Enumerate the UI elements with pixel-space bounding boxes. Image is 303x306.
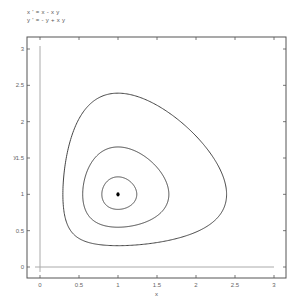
x-tick-label: 2.5 [231, 282, 240, 288]
x-tick-label: 0.5 [75, 282, 84, 288]
x-tick-label: 0 [38, 282, 42, 288]
y-tick-label: 3 [21, 46, 25, 52]
reference-lines [35, 46, 274, 272]
x-axis-label: x [155, 291, 158, 297]
y-axis-label: y [14, 154, 17, 160]
orbit-curves [63, 93, 227, 246]
x-tick-label: 3 [272, 282, 276, 288]
phase-plane-plot: 00.511.522.53 00.511.522.53 x y [0, 0, 303, 306]
y-axis-ticks: 00.511.522.53 [16, 46, 286, 270]
y-tick-label: 2.5 [16, 82, 25, 88]
x-axis-ticks: 00.511.522.53 [38, 37, 276, 288]
x-tick-label: 1 [116, 282, 120, 288]
y-tick-label: 1 [21, 191, 25, 197]
y-tick-label: 0.5 [16, 228, 25, 234]
y-tick-label: 0 [21, 264, 25, 270]
equilibrium-point [116, 192, 119, 196]
equilibrium-dot [116, 192, 119, 196]
y-tick-label: 2 [21, 119, 25, 125]
x-tick-label: 1.5 [153, 282, 162, 288]
x-tick-label: 2 [194, 282, 198, 288]
orbit-middle [83, 147, 169, 227]
y-tick-label: 1.5 [16, 155, 25, 161]
